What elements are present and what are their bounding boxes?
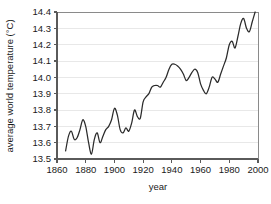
x-tick-label: 1860 bbox=[46, 164, 67, 175]
y-tick-label: 13.9 bbox=[33, 88, 52, 99]
y-axis-title: average world temperature (°C) bbox=[4, 19, 15, 152]
y-tick-label: 14.3 bbox=[33, 23, 52, 34]
x-tick-label: 1960 bbox=[190, 164, 211, 175]
y-tick-label: 13.6 bbox=[33, 137, 52, 148]
y-axis-label: average world temperature (°C) bbox=[4, 19, 15, 152]
x-tick-label: 1900 bbox=[104, 164, 125, 175]
x-tick-label: 2000 bbox=[247, 164, 268, 175]
x-axis-label: year bbox=[149, 181, 167, 192]
x-axis-title: year bbox=[149, 181, 167, 192]
y-tick-label: 13.5 bbox=[33, 153, 52, 164]
x-tick-label: 1940 bbox=[161, 164, 182, 175]
x-tick-label: 1880 bbox=[75, 164, 96, 175]
x-tick-label: 1980 bbox=[219, 164, 240, 175]
x-tick-labels: 18601880190019201940196019802000 bbox=[46, 164, 268, 175]
temperature-line-chart: 13.513.613.713.813.914.014.114.214.314.4… bbox=[0, 0, 271, 204]
chart-container: 13.513.613.713.813.914.014.114.214.314.4… bbox=[0, 0, 271, 204]
y-tick-label: 14.4 bbox=[33, 6, 52, 17]
y-tick-label: 14.0 bbox=[33, 72, 52, 83]
y-tick-label: 13.7 bbox=[33, 121, 52, 132]
y-tick-label: 13.8 bbox=[33, 104, 52, 115]
y-tick-labels: 13.513.613.713.813.914.014.114.214.314.4 bbox=[33, 6, 52, 164]
x-tick-label: 1920 bbox=[133, 164, 154, 175]
y-tick-label: 14.2 bbox=[33, 39, 52, 50]
y-tick-label: 14.1 bbox=[33, 55, 52, 66]
